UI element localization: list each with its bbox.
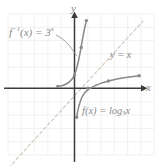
label-log-tail: x [126, 105, 131, 116]
label-inverse-function: f−1(x) = 3x [9, 26, 54, 38]
label-inverse-exponent: −1 [12, 25, 20, 32]
y-axis-label: y [71, 3, 76, 14]
leader-line [56, 35, 77, 56]
x-axis-label: x [146, 82, 151, 93]
label-identity-line: y = x [110, 49, 132, 60]
identity-line [9, 21, 144, 166]
label-identity-x: x [127, 48, 132, 60]
label-log-function: f(x) = log3x [82, 106, 130, 117]
label-log-head: f(x) = log [82, 105, 122, 116]
label-identity-equals: = [115, 48, 127, 60]
graph-figure: f−1(x) = 3x y = x f(x) = log3x y x [0, 0, 157, 166]
label-inverse-power: x [51, 25, 54, 32]
axes [4, 18, 141, 162]
exponential-curve [58, 21, 87, 87]
label-inverse-body: (x) = 3 [20, 26, 51, 38]
